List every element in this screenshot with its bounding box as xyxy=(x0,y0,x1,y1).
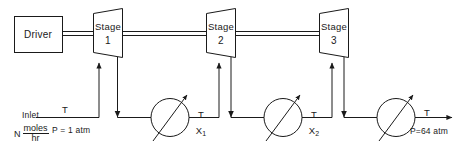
stream1-composition-label: X1 xyxy=(196,126,207,136)
stream2-temperature-label: T xyxy=(311,110,317,120)
outlet-temperature-label: T xyxy=(424,108,430,118)
stage2-to-cooler2-line xyxy=(231,57,264,118)
stage-3-number-label: 3 xyxy=(331,36,337,46)
stream2-composition-symbol: X xyxy=(309,125,316,136)
inlet-flow-fraction: moles hr xyxy=(23,124,49,144)
stage2-discharge-arrowhead xyxy=(228,111,234,118)
inlet-pressure-label: P = 1 atm xyxy=(52,126,90,135)
inlet-label: Inlet xyxy=(22,111,39,120)
stage-1-body xyxy=(94,9,123,58)
driver-label: Driver xyxy=(24,30,52,40)
stream1-composition-subscript: 1 xyxy=(202,130,206,137)
stage-3-name-label: Stage xyxy=(321,22,347,32)
inlet-flow-denominator: hr xyxy=(32,134,40,143)
stage-1-number-label: 1 xyxy=(105,36,111,46)
stage-1-name-label: Stage xyxy=(95,22,121,32)
stream2-composition-label: X2 xyxy=(309,126,320,136)
stage-3-body xyxy=(320,9,349,58)
stage1-to-cooler1-line xyxy=(118,57,152,118)
stage3-discharge-arrowhead xyxy=(341,111,347,118)
stream1-composition-symbol: X xyxy=(196,125,203,136)
stream2-composition-subscript: 2 xyxy=(315,130,319,137)
inlet-flowrate-label: N moles hr xyxy=(14,124,49,144)
inlet-flow-symbol: N xyxy=(14,129,21,139)
stage3-to-cooler3-line xyxy=(344,57,377,118)
stage1-discharge-arrowhead xyxy=(115,111,121,118)
outlet-pressure-label: P=64 atm xyxy=(410,127,448,136)
stage-2-number-label: 2 xyxy=(218,36,224,46)
process-flow-diagram: Driver Stage 1 Stage 2 Stage 3 Inlet N m… xyxy=(0,0,466,158)
inlet-temperature-label: T xyxy=(62,105,68,115)
stage-2-name-label: Stage xyxy=(208,22,234,32)
stage-2-body xyxy=(207,9,236,58)
stream1-temperature-label: T xyxy=(198,110,204,120)
